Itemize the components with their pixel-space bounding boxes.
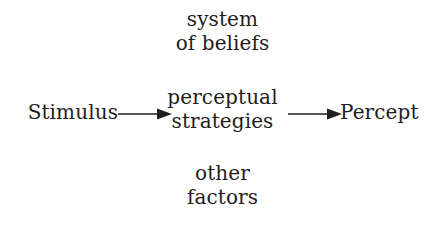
node-perceptual-strategies-line-1: perceptual bbox=[150, 86, 295, 110]
node-perceptual-strategies-line-2: strategies bbox=[150, 110, 295, 134]
node-system-of-beliefs: system of beliefs bbox=[150, 8, 295, 55]
node-perceptual-strategies: perceptual strategies bbox=[150, 86, 295, 133]
node-system-of-beliefs-line-2: of beliefs bbox=[150, 32, 295, 56]
node-other-factors-line-2: factors bbox=[150, 186, 295, 210]
node-other-factors: other factors bbox=[150, 162, 295, 209]
node-other-factors-line-1: other bbox=[150, 162, 295, 186]
node-percept-label: Percept bbox=[340, 101, 438, 125]
node-stimulus: Stimulus bbox=[8, 101, 118, 125]
node-percept: Percept bbox=[340, 101, 438, 125]
node-stimulus-label: Stimulus bbox=[8, 101, 118, 125]
node-system-of-beliefs-line-1: system bbox=[150, 8, 295, 32]
perception-flow-diagram: system of beliefs Stimulus perceptual st… bbox=[0, 0, 442, 229]
arrow-right-icon bbox=[288, 104, 342, 124]
arrow-perceptual-strategies-to-percept bbox=[288, 104, 342, 124]
